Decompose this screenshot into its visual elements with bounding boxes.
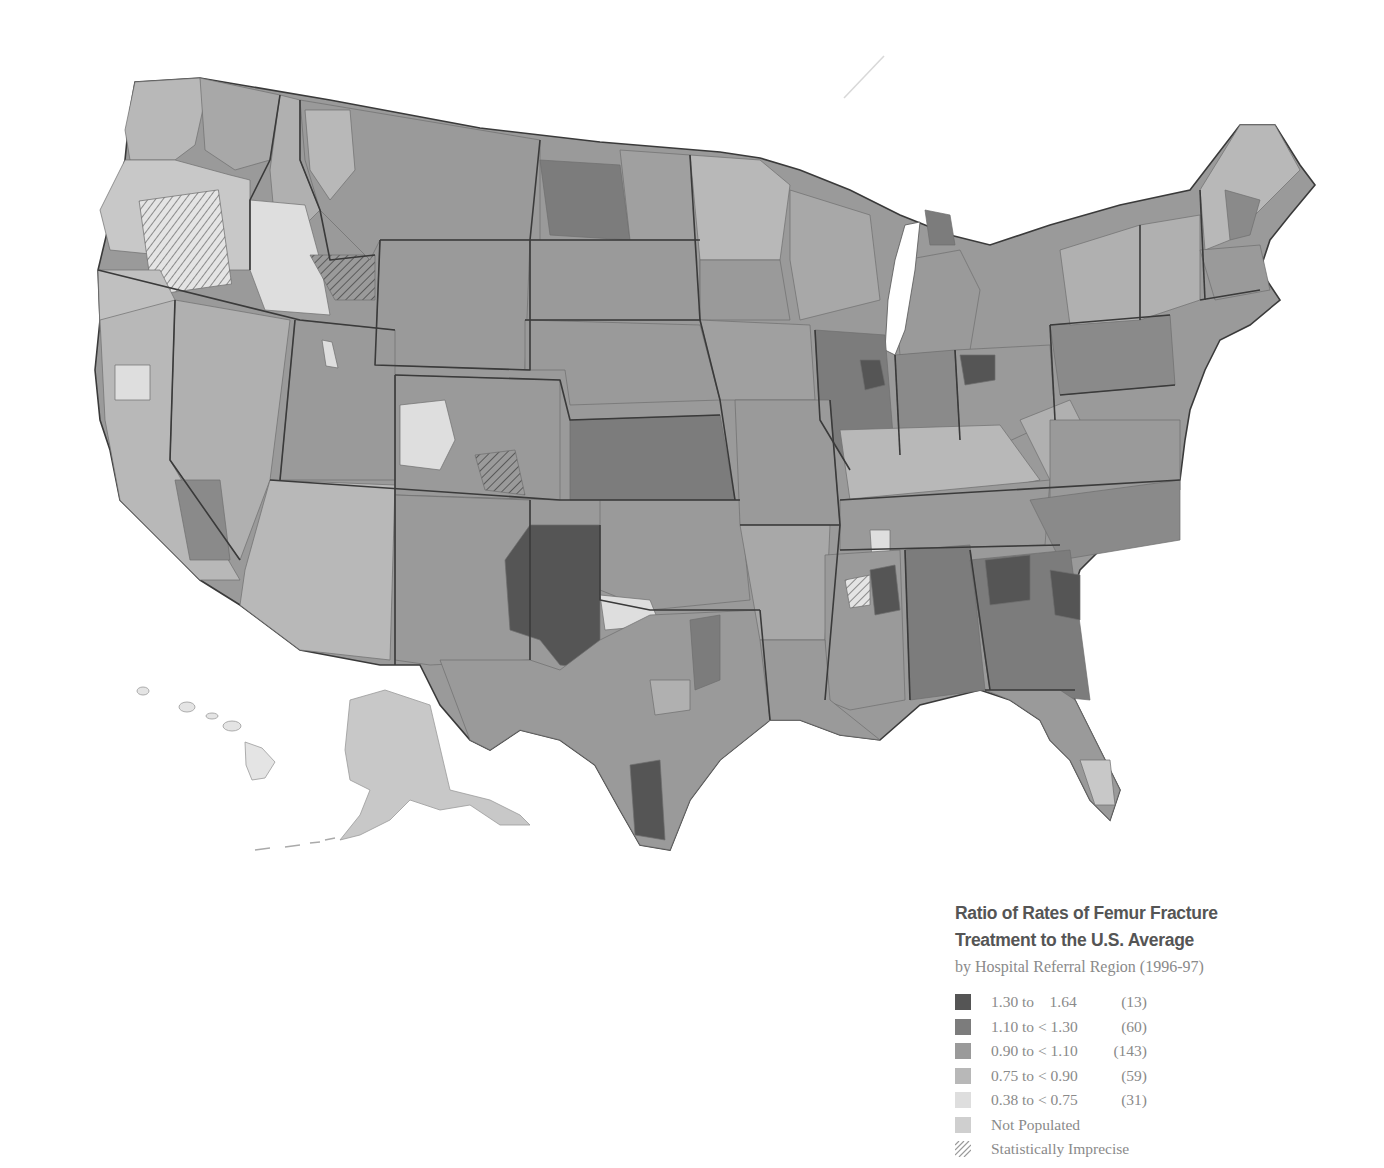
legend-range: Not Populated [991, 1116, 1111, 1134]
legend-range: 0.90 to < 1.10 [991, 1042, 1111, 1060]
legend-count: (143) [1111, 1042, 1147, 1060]
hatch-swatch-icon [955, 1141, 971, 1157]
legend-count: (13) [1111, 993, 1147, 1011]
legend-item: 1.10 to < 1.30 (60) [955, 1015, 1275, 1040]
swatch-not-populated [955, 1117, 971, 1133]
legend-title-line1: Ratio of Rates of Femur Fracture [955, 900, 1275, 927]
legend-count: (59) [1111, 1067, 1147, 1085]
swatch-0-38-to-0-75 [955, 1092, 971, 1108]
swatch-1-30-to-1-64 [955, 994, 971, 1010]
legend-range: 1.30 to 1.64 [991, 993, 1111, 1011]
map-legend: Ratio of Rates of Femur Fracture Treatme… [955, 900, 1275, 1162]
aleutian-islands [255, 838, 335, 850]
legend-count: (31) [1111, 1091, 1147, 1109]
legend-range: 0.38 to < 0.75 [991, 1091, 1111, 1109]
legend-title-line2: Treatment to the U.S. Average [955, 927, 1275, 954]
legend-range: 0.75 to < 0.90 [991, 1067, 1111, 1085]
us-hrr-choropleth-map [0, 0, 1384, 880]
swatch-0-75-to-0-90 [955, 1068, 971, 1084]
legend-item: Statistically Imprecise [955, 1137, 1275, 1162]
legend-range: Statistically Imprecise [991, 1140, 1129, 1158]
swatch-1-10-to-1-30 [955, 1019, 971, 1035]
swatch-0-90-to-1-10 [955, 1043, 971, 1059]
legend-range: 1.10 to < 1.30 [991, 1018, 1111, 1036]
legend-subtitle: by Hospital Referral Region (1996-97) [955, 958, 1275, 976]
legend-item: 0.38 to < 0.75 (31) [955, 1088, 1275, 1113]
legend-count: (60) [1111, 1018, 1147, 1036]
legend-item: 0.90 to < 1.10 (143) [955, 1039, 1275, 1064]
stray-line [844, 56, 884, 98]
contiguous-us [95, 78, 1315, 850]
legend-item: 1.30 to 1.64 (13) [955, 990, 1275, 1015]
hawaii [137, 687, 275, 780]
legend-item: 0.75 to < 0.90 (59) [955, 1064, 1275, 1089]
legend-item: Not Populated [955, 1113, 1275, 1138]
